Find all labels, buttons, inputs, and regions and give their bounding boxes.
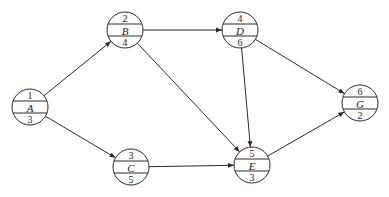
node-duration: 3 bbox=[28, 114, 33, 125]
node-label: D bbox=[235, 25, 244, 37]
node-number: 2 bbox=[123, 13, 128, 24]
network-diagram: 1A32B43C54D65E36G2 bbox=[0, 0, 389, 197]
edge-b-to-e bbox=[137, 43, 239, 152]
node-label: B bbox=[122, 25, 129, 37]
edge-d-to-e bbox=[242, 48, 251, 147]
edge-c-to-e bbox=[149, 165, 234, 166]
node-label: E bbox=[248, 160, 256, 172]
node-duration: 5 bbox=[129, 174, 134, 185]
edge-e-to-g bbox=[268, 112, 345, 156]
node-number: 6 bbox=[358, 86, 363, 97]
node-e: 5E3 bbox=[234, 147, 270, 183]
node-number: 5 bbox=[250, 148, 255, 159]
node-label: G bbox=[356, 98, 364, 110]
edge-a-to-b bbox=[44, 41, 111, 95]
node-label: C bbox=[127, 162, 135, 174]
node-number: 3 bbox=[129, 150, 134, 161]
edges-layer bbox=[44, 30, 345, 167]
edge-d-to-g bbox=[255, 39, 344, 93]
node-g: 6G2 bbox=[342, 85, 378, 121]
node-d: 4D6 bbox=[222, 12, 258, 48]
edge-a-to-c bbox=[45, 116, 115, 158]
node-number: 1 bbox=[28, 90, 33, 101]
node-duration: 2 bbox=[358, 110, 363, 121]
node-label: A bbox=[26, 102, 34, 114]
node-a: 1A3 bbox=[12, 89, 48, 125]
node-c: 3C5 bbox=[113, 149, 149, 185]
nodes-layer: 1A32B43C54D65E36G2 bbox=[12, 12, 378, 185]
node-number: 4 bbox=[238, 13, 243, 24]
node-duration: 4 bbox=[123, 37, 128, 48]
node-duration: 3 bbox=[250, 172, 255, 183]
node-b: 2B4 bbox=[107, 12, 143, 48]
node-duration: 6 bbox=[238, 37, 243, 48]
